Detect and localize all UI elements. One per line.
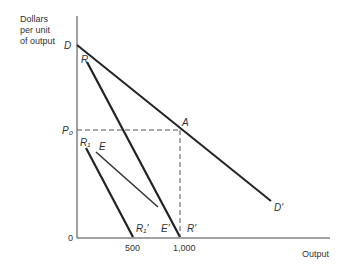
label-d-prime: D' (274, 203, 283, 213)
label-r1: R₁ (80, 138, 90, 148)
origin-label: 0 (68, 234, 73, 243)
label-r: R (81, 55, 88, 65)
label-a: A (182, 118, 189, 128)
label-d: D (64, 41, 71, 51)
y-label-line: of output (20, 36, 55, 47)
y-axis-label: Dollars per unit of output (20, 14, 55, 47)
y-label-line: Dollars (20, 14, 55, 25)
y-label-line: per unit (20, 25, 55, 36)
x-tick-500: 500 (125, 244, 140, 253)
label-e-prime: E' (161, 224, 170, 234)
label-e: E (99, 142, 106, 152)
demand-line (77, 45, 271, 201)
x-tick-1000: 1,000 (173, 244, 196, 253)
x-axis-label: Output (302, 250, 329, 259)
r1-line (86, 148, 133, 237)
label-r-prime: R' (187, 224, 196, 234)
label-r1-prime: R₁' (136, 224, 148, 234)
label-p0: P₀ (62, 126, 73, 136)
